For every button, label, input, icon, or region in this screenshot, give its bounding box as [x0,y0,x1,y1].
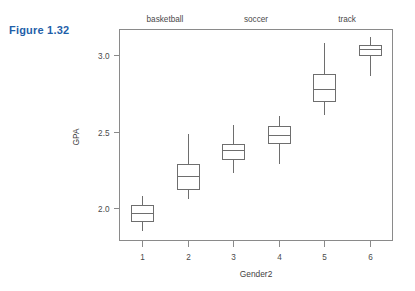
box-series [132,37,382,231]
y-tick-label-2.0: 2.0 [98,205,110,214]
x-tick-label-2: 2 [186,253,191,262]
box-plot-item [132,196,154,231]
group-annotation-soccer: soccer [244,15,268,24]
y-axis-title: GPA [71,128,81,145]
x-axis [143,241,371,247]
box-plot-item [360,37,382,76]
box-iqr [223,145,245,160]
x-axis-title: Gender2 [240,269,273,279]
boxplot-chart: basketball soccer track 2.0 2.5 3.0 GPA … [0,0,415,291]
box-plot-item [269,116,291,164]
plot-frame [120,30,393,241]
box-iqr [314,75,336,102]
x-tick-label-4: 4 [277,253,282,262]
box-plot-item [178,134,200,199]
box-iqr [360,46,382,56]
box-plot-item [223,125,245,173]
y-axis [114,56,120,209]
y-tick-label-2.5: 2.5 [98,129,110,138]
x-tick-label-3: 3 [231,253,236,262]
box-plot-item [314,43,336,115]
x-tick-label-1: 1 [140,253,145,262]
group-annotation-basketball: basketball [147,15,184,24]
group-annotation-track: track [338,15,357,24]
group-annotations: basketball soccer track [147,15,357,24]
y-tick-label-3.0: 3.0 [98,52,110,61]
x-tick-label-5: 5 [322,253,327,262]
x-tick-label-6: 6 [368,253,373,262]
